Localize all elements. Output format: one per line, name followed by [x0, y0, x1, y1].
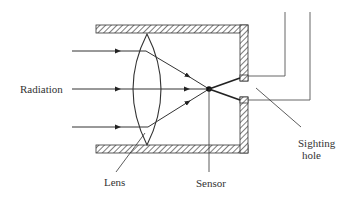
sighting-hole-label-line2: hole — [302, 149, 321, 161]
sensor-lead-lower — [209, 89, 240, 100]
pyrometer-diagram — [0, 0, 354, 199]
radiation-label: Radiation — [20, 83, 63, 95]
sensor-label: Sensor — [196, 177, 226, 189]
housing-top-wall — [96, 25, 248, 33]
housing-bottom-wall — [96, 145, 248, 153]
radiation-rays — [72, 51, 209, 127]
ray-top-refracted — [146, 51, 188, 76]
output-lead-2 — [248, 12, 310, 100]
sighting-hole-leader — [256, 88, 301, 127]
output-lead-1 — [248, 12, 285, 76]
hole-tab-upper — [240, 75, 248, 81]
sighting-hole-label-line1: Sighting — [298, 137, 335, 149]
sensor-lead-upper — [209, 78, 240, 89]
lens-label: Lens — [104, 176, 125, 188]
hole-tab-lower — [240, 97, 248, 103]
housing-right-wall-lower — [240, 97, 248, 153]
housing-right-wall-upper — [240, 25, 248, 81]
ray-bottom-refracted — [148, 102, 188, 127]
